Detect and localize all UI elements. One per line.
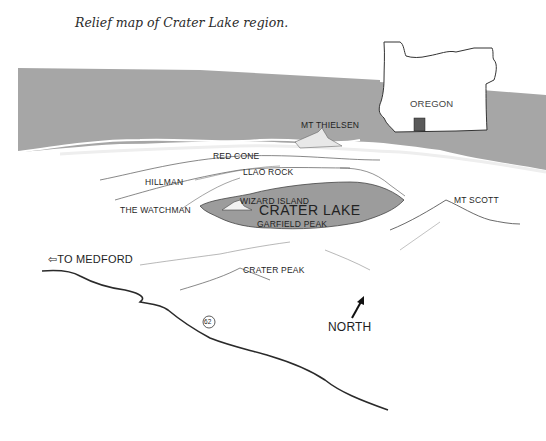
left-arrow-icon: ⇦ [48,253,57,265]
oregon-label: OREGON [410,98,453,109]
label-mt-thielsen: MT THIELSEN [301,120,359,130]
route-62-road [42,271,388,410]
label-mt-scott: MT SCOTT [454,195,499,205]
to-medford-label: ⇦TO MEDFORD [48,253,133,266]
crater-lake-locator-box [414,118,425,131]
label-the-watchman: THE WATCHMAN [120,205,191,215]
label-red-cone: RED CONE [213,151,259,161]
label-crater-peak: CRATER PEAK [243,265,305,275]
north-label: NORTH [328,320,371,334]
label-hillman: HILLMAN [145,177,183,187]
oregon-inset-outline [379,42,496,132]
relief-map-page: Relief map of Crater Lake region. OREGON… [0,0,546,441]
label-crater-lake: CRATER LAKE [259,202,361,218]
label-llao-rock: LLAO ROCK [243,167,293,177]
route-62-label: 62 [204,318,212,325]
label-garfield-peak: GARFIELD PEAK [257,219,327,229]
north-arrow-icon [352,296,364,318]
map-caption: Relief map of Crater Lake region. [75,15,288,30]
